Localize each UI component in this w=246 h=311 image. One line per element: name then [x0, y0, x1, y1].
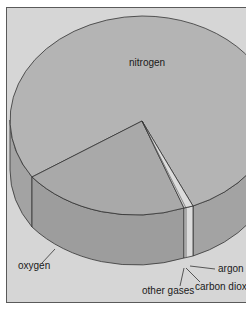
label-nitrogen: nitrogen [129, 58, 165, 68]
argon-side-wall [184, 206, 193, 258]
label-oxygen: oxygen [18, 261, 50, 271]
label-other-gases: other gases [142, 286, 194, 296]
label-argon: argon [218, 264, 244, 274]
label-carbon-dioxide: carbon dioxide [195, 282, 246, 292]
